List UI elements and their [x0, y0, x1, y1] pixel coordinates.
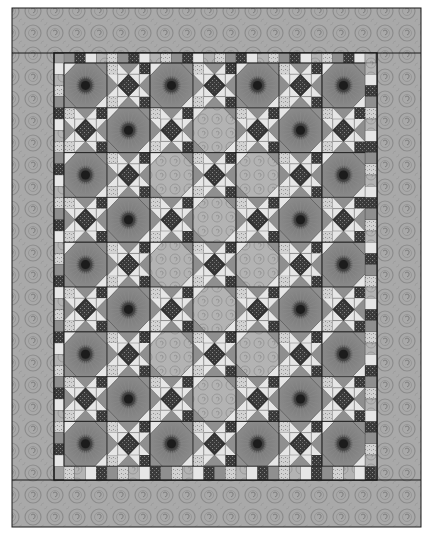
star-block: [279, 63, 322, 108]
star-block: [107, 332, 150, 377]
eye-octagon-block: [150, 421, 193, 466]
eye-octagon-block: [322, 242, 365, 287]
eye-octagon-block: [107, 108, 150, 153]
plain-octagon-block: [193, 197, 236, 242]
plain-octagon-block: [193, 377, 236, 422]
plain-octagon-block: [150, 242, 193, 287]
star-block: [64, 108, 107, 153]
star-block: [236, 108, 279, 153]
star-block: [107, 63, 150, 108]
star-block: [150, 287, 193, 332]
star-block: [279, 421, 322, 466]
eye-octagon-block: [322, 421, 365, 466]
eye-octagon-block: [322, 153, 365, 198]
star-block: [236, 197, 279, 242]
plain-octagon-block: [150, 332, 193, 377]
quilt-image: [0, 0, 431, 533]
star-block: [322, 287, 365, 332]
star-block: [236, 377, 279, 422]
star-block: [279, 332, 322, 377]
plain-octagon-block: [236, 242, 279, 287]
plain-octagon-block: [193, 108, 236, 153]
star-block: [279, 242, 322, 287]
eye-octagon-block: [64, 421, 107, 466]
star-block: [107, 421, 150, 466]
star-block: [150, 377, 193, 422]
eye-octagon-block: [279, 377, 322, 422]
eye-octagon-block: [107, 197, 150, 242]
star-block: [236, 287, 279, 332]
eye-octagon-block: [279, 108, 322, 153]
star-block: [107, 242, 150, 287]
quilt-center: [54, 53, 377, 480]
star-block: [64, 377, 107, 422]
eye-octagon-block: [279, 287, 322, 332]
star-block: [193, 153, 236, 198]
star-block: [322, 108, 365, 153]
star-block: [150, 197, 193, 242]
plain-octagon-block: [150, 153, 193, 198]
star-block: [64, 197, 107, 242]
star-block: [322, 197, 365, 242]
star-block: [64, 287, 107, 332]
eye-octagon-block: [107, 287, 150, 332]
star-block: [150, 108, 193, 153]
plain-octagon-block: [236, 153, 279, 198]
star-block: [107, 153, 150, 198]
eye-octagon-block: [236, 63, 279, 108]
eye-octagon-block: [64, 332, 107, 377]
eye-octagon-block: [279, 197, 322, 242]
star-block: [193, 63, 236, 108]
eye-octagon-block: [236, 421, 279, 466]
star-block: [193, 332, 236, 377]
plain-octagon-block: [236, 332, 279, 377]
eye-octagon-block: [322, 63, 365, 108]
star-block: [193, 242, 236, 287]
eye-octagon-block: [64, 153, 107, 198]
eye-octagon-block: [322, 332, 365, 377]
plain-octagon-block: [193, 287, 236, 332]
star-block: [193, 421, 236, 466]
eye-octagon-block: [107, 377, 150, 422]
star-block: [322, 377, 365, 422]
eye-octagon-block: [150, 63, 193, 108]
eye-octagon-block: [64, 63, 107, 108]
star-block: [279, 153, 322, 198]
eye-octagon-block: [64, 242, 107, 287]
